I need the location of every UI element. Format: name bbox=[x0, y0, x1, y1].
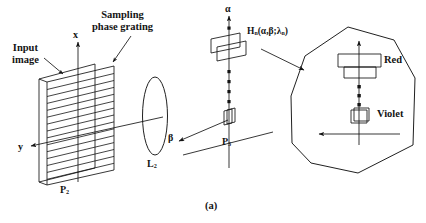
label-input-image-line1: Input bbox=[13, 42, 38, 53]
tf-close: ) bbox=[285, 26, 288, 36]
label-plane-p2: P2 bbox=[60, 184, 69, 196]
grating-rulings bbox=[47, 74, 114, 180]
label-sampling-line1: Sampling bbox=[101, 9, 144, 20]
figure-canvas: Input image Sampling phase grating x y α… bbox=[0, 0, 426, 223]
label-lens-l2: L2 bbox=[147, 158, 157, 170]
label-input-image-line2: image bbox=[12, 54, 39, 65]
label-spectrum-red: Red bbox=[384, 54, 402, 66]
label-plane-p3: P3 bbox=[222, 136, 231, 148]
label-sampling-phase-grating: Sampling phase grating bbox=[92, 9, 153, 33]
axis-label-beta: β bbox=[168, 132, 173, 143]
axis-beta-arrow bbox=[179, 120, 228, 141]
lens-l2 bbox=[143, 77, 168, 155]
axis-label-alpha: α bbox=[225, 3, 231, 14]
sampling-phase-grating-plate bbox=[47, 66, 114, 185]
leader-sampling-grating bbox=[113, 36, 131, 62]
spectrum-detail-polygon bbox=[291, 27, 415, 173]
label-sampling-line2: phase grating bbox=[92, 21, 153, 32]
plane-edge-connectors bbox=[39, 79, 47, 185]
callout-arrow bbox=[261, 49, 304, 70]
p3-diffraction-order-lower bbox=[224, 108, 235, 125]
p3-diffraction-order-upper bbox=[211, 33, 246, 61]
label-input-image: Input image bbox=[12, 42, 39, 66]
label-lens-l2-base: L bbox=[147, 158, 154, 169]
ellipsis-dots bbox=[227, 27, 360, 107]
figure-caption: (a) bbox=[205, 200, 217, 212]
leader-input-image bbox=[44, 58, 63, 74]
label-spectrum-violet: Violet bbox=[377, 108, 403, 120]
label-lens-l2-sub: 2 bbox=[154, 162, 157, 169]
callout-order-red bbox=[338, 54, 381, 78]
label-transfer-function: Hn(α,β;λn) bbox=[247, 26, 288, 37]
axis-label-x: x bbox=[73, 29, 78, 40]
callout-order-violet bbox=[351, 108, 369, 123]
label-plane-p2-sub: 2 bbox=[66, 188, 69, 195]
label-plane-p3-sub: 3 bbox=[228, 140, 231, 147]
axis-label-y: y bbox=[18, 141, 23, 152]
